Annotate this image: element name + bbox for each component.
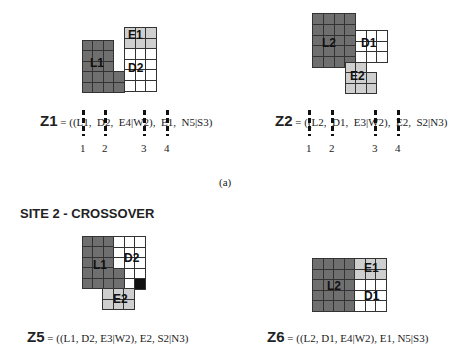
z5-label-d2: D2 bbox=[124, 252, 139, 264]
grid-cell bbox=[113, 268, 125, 280]
z6-label-l2: L2 bbox=[327, 280, 341, 292]
section-title: SITE 2 - CROSSOVER bbox=[20, 206, 154, 221]
z2-label-l2: L2 bbox=[322, 37, 336, 49]
z2-cut-num-1: 1 bbox=[306, 142, 312, 154]
grid-cell bbox=[145, 80, 157, 92]
z2-cut-2 bbox=[331, 110, 334, 136]
z1-cut-num-2: 2 bbox=[102, 142, 108, 154]
z1-label-d2: D2 bbox=[128, 62, 143, 74]
z1-cut-num-3: 3 bbox=[141, 142, 147, 154]
z2-formula: Z2 = ((L2, D1, E3|W2), E2, S2|N3) bbox=[275, 114, 447, 129]
z2-token-5: S2|N3) bbox=[416, 116, 447, 128]
z2-cut-num-2: 2 bbox=[329, 142, 335, 154]
z2-name: Z2 bbox=[275, 112, 293, 129]
z2-token-1: L2, bbox=[312, 116, 327, 128]
z2-cut-1 bbox=[308, 110, 311, 136]
z5-label-e2: E2 bbox=[113, 293, 128, 305]
z1-cut-4 bbox=[166, 110, 169, 136]
z6-label-e1: E1 bbox=[364, 262, 379, 274]
z2-cut-num-3: 3 bbox=[372, 142, 378, 154]
z6-formula: Z6 = ((L2, D1, E4|W2), E1, N5|S3) bbox=[267, 330, 428, 345]
z2-token-3: E3|W2), bbox=[354, 116, 391, 128]
z5-name: Z5 bbox=[27, 328, 45, 345]
z1-token-3: E4|W2), bbox=[119, 116, 156, 128]
z2-cut-num-4: 4 bbox=[395, 142, 401, 154]
grid-cell bbox=[366, 83, 377, 94]
z5-expression: = ((L1, D2, E3|W2), E2, S2|N3) bbox=[45, 332, 189, 344]
z5-label-l1: L1 bbox=[93, 259, 107, 271]
z6-name: Z6 bbox=[267, 328, 285, 345]
figure-caption: (a) bbox=[219, 176, 231, 188]
z2-token-2: D1, bbox=[332, 116, 348, 128]
z1-cut-2 bbox=[104, 110, 107, 136]
z1-cut-num-4: 4 bbox=[164, 142, 170, 154]
z6-expression: = ((L2, D1, E4|W2), E1, N5|S3) bbox=[285, 332, 429, 344]
z2-label-d1: D1 bbox=[361, 37, 376, 49]
z2-cut-4 bbox=[397, 110, 400, 136]
grid-cell bbox=[134, 278, 146, 290]
z1-formula: Z1 = ((L1, D2, E4|W2), E1, N5|S3) bbox=[40, 114, 212, 129]
z1-prefix: = (( bbox=[58, 116, 77, 128]
z1-label-l1: L1 bbox=[90, 57, 104, 69]
z1-token-5: N5|S3) bbox=[181, 116, 212, 128]
grid-cell bbox=[376, 51, 388, 63]
z1-cut-3 bbox=[143, 110, 146, 136]
crossover-diagram: E1 L1 D2 L2 D1 E2 Z1 = ((L1, D2, E4|W2),… bbox=[0, 0, 464, 347]
z6-label-d1: D1 bbox=[364, 290, 379, 302]
z5-formula: Z5 = ((L1, D2, E3|W2), E2, S2|N3) bbox=[27, 330, 188, 345]
z1-cut-num-1: 1 bbox=[80, 142, 86, 154]
z1-cut-1 bbox=[82, 110, 85, 136]
z1-label-e1: E1 bbox=[128, 29, 143, 41]
z1-name: Z1 bbox=[40, 112, 58, 129]
z2-label-e2: E2 bbox=[350, 70, 365, 82]
z2-cut-3 bbox=[374, 110, 377, 136]
grid-cell bbox=[113, 82, 124, 93]
